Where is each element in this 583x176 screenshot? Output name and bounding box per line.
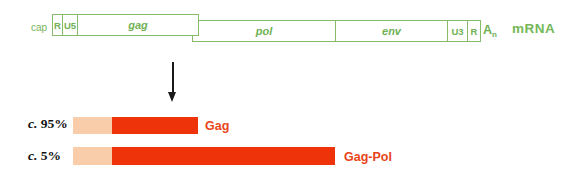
pol-gene-label: pol [256,25,273,37]
gag-protein-label: Gag [205,119,229,133]
gag-fraction-label: c. 95% [28,116,68,132]
poly-a-tail-label: An [483,23,497,39]
gagpol-protein-label: Gag-Pol [344,150,392,164]
down-arrow-icon [172,62,174,93]
gene-box-pol: pol [192,20,336,42]
gag-gene-label: gag [128,19,148,31]
gagpol-fraction-label: c. 5% [28,148,61,164]
ltr-box-u5: U5 [62,14,78,36]
gene-box-env: env [335,20,448,42]
ltr-box-u3: U3 [447,20,468,42]
r-right-label: R [471,26,478,37]
poly-a-subscript: n [492,30,497,39]
r-left-label: R [54,20,61,31]
mrna-type-label: mRNA [512,21,555,36]
ltr-box-r-right: R [467,20,481,42]
cap-label: cap [31,22,47,33]
u5-label: U5 [64,20,76,31]
retroviral-mrna-translation-diagram: cap pol env U3 R R U5 gag An mRNA c. 95%… [0,0,583,176]
gagpol-orf-segment [112,147,335,165]
u3-label: U3 [451,26,463,37]
down-arrow-head-icon [168,92,176,102]
env-gene-label: env [382,25,401,37]
gag-orf-segment [112,117,198,134]
gagpol-leader-segment [73,147,112,165]
gag-leader-segment [73,117,112,134]
gene-box-gag: gag [77,14,199,36]
